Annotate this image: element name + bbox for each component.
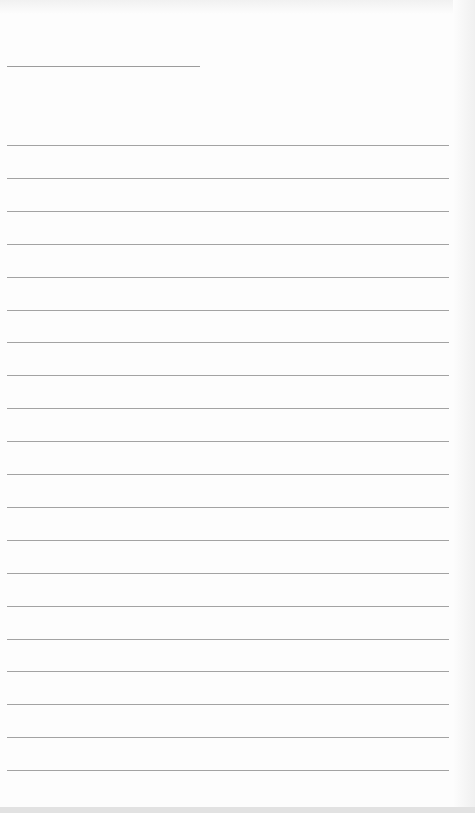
ruled-line xyxy=(7,606,449,607)
ruled-line xyxy=(7,704,449,705)
ruled-line xyxy=(7,507,449,508)
ruled-line xyxy=(7,244,449,245)
ruled-line xyxy=(7,178,449,179)
ruled-line xyxy=(7,671,449,672)
scan-shadow-top xyxy=(0,0,475,14)
ruled-line xyxy=(7,211,449,212)
scan-edge-bottom xyxy=(0,807,475,813)
ruled-line xyxy=(7,770,449,771)
ruled-page xyxy=(0,0,475,813)
ruled-line xyxy=(7,342,449,343)
scan-shadow-right xyxy=(453,0,475,813)
title-line xyxy=(7,66,200,67)
ruled-line xyxy=(7,145,449,146)
ruled-line xyxy=(7,737,449,738)
ruled-line xyxy=(7,375,449,376)
ruled-line xyxy=(7,474,449,475)
ruled-line xyxy=(7,277,449,278)
ruled-line xyxy=(7,639,449,640)
ruled-line xyxy=(7,310,449,311)
ruled-line xyxy=(7,573,449,574)
ruled-line xyxy=(7,441,449,442)
ruled-line xyxy=(7,408,449,409)
ruled-line xyxy=(7,540,449,541)
